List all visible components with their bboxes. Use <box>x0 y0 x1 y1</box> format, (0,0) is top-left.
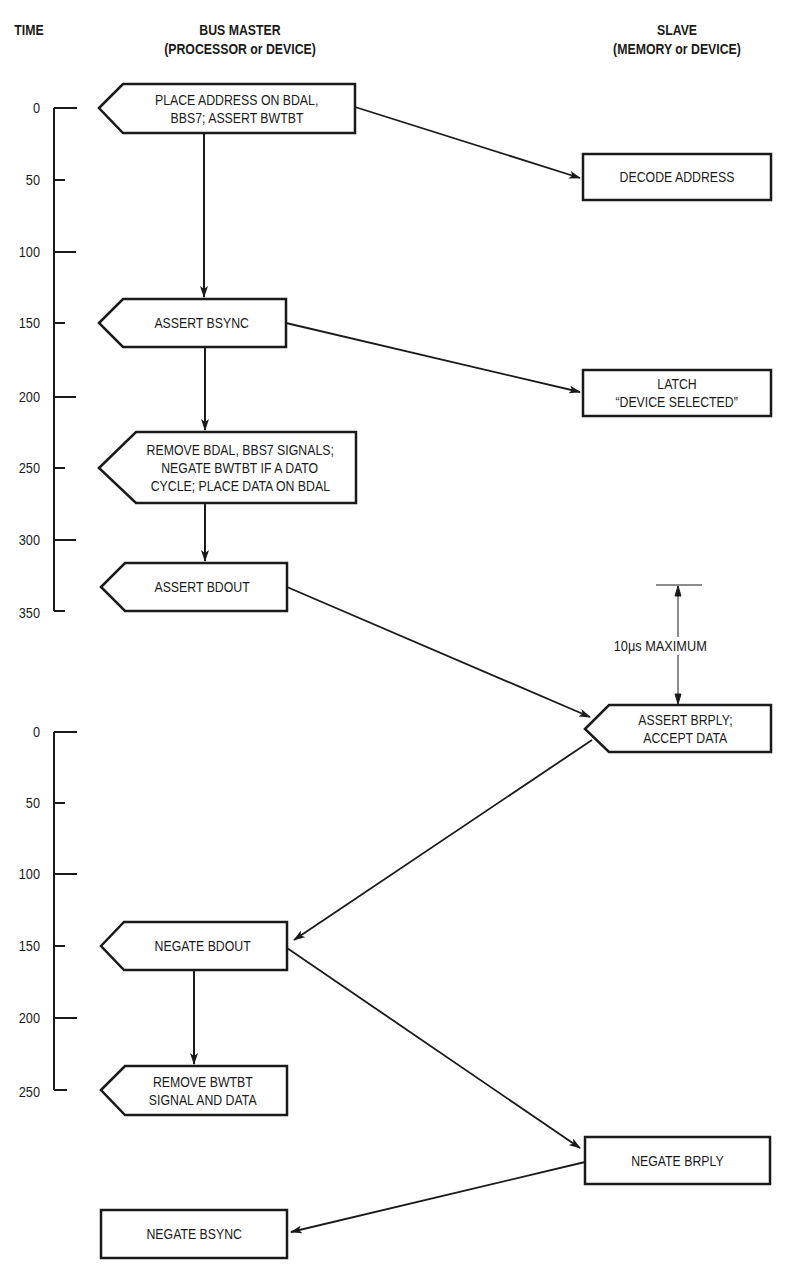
slave-subtitle: (MEMORY or DEVICE) <box>595 39 759 58</box>
step-negate-bsync: NEGATE BSYNC <box>101 1210 287 1258</box>
axis1-tick-label: 150 <box>6 315 40 331</box>
axis2-tick-label: 250 <box>6 1084 40 1100</box>
step-negate-bdout: NEGATE BDOUT <box>118 922 287 970</box>
time-header: TIME <box>9 20 50 39</box>
bus-master-header: BUS MASTER (PROCESSOR or DEVICE) <box>158 20 322 58</box>
step-decode-address: DECODE ADDRESS <box>583 154 771 200</box>
time-axis-2 <box>54 732 77 1090</box>
slave-header: SLAVE (MEMORY or DEVICE) <box>595 20 759 58</box>
step-place-address: PLACE ADDRESS ON BDAL, BBS7; ASSERT BWTB… <box>118 84 355 133</box>
axis1-tick-label: 200 <box>6 389 40 405</box>
axis1-tick-label: 0 <box>6 100 40 116</box>
slave-title: SLAVE <box>595 20 759 39</box>
axis2-tick-label: 150 <box>6 938 40 954</box>
axis1-tick-label: 100 <box>6 244 40 260</box>
axis2-tick-label: 50 <box>6 795 40 811</box>
axis1-tick-label: 50 <box>6 172 40 188</box>
axis2-tick-label: 100 <box>6 866 40 882</box>
step-assert-bsync: ASSERT BSYNC <box>118 299 286 347</box>
bus-master-title: BUS MASTER <box>158 20 322 39</box>
axis1-tick-label: 300 <box>6 532 40 548</box>
axis1-tick-label: 350 <box>6 605 40 621</box>
axis2-tick-label: 0 <box>6 724 40 740</box>
step-remove-bwtbt: REMOVE BWTBT SIGNAL AND DATA <box>118 1066 287 1115</box>
step-negate-brply: NEGATE BRPLY <box>585 1137 770 1184</box>
step-assert-bdout: ASSERT BDOUT <box>118 563 287 611</box>
step-remove-bdal: REMOVE BDAL, BBS7 SIGNALS; NEGATE BWTBT … <box>122 432 358 503</box>
timeout-annotation: 10μs MAXIMUM <box>612 637 708 655</box>
step-latch-device-selected: LATCH “DEVICE SELECTED” <box>583 370 771 416</box>
axis1-tick-label: 250 <box>6 460 40 476</box>
time-axis-1 <box>54 108 77 611</box>
step-assert-brply: ASSERT BRPLY; ACCEPT DATA <box>600 705 771 752</box>
axis2-tick-label: 200 <box>6 1010 40 1026</box>
bus-master-subtitle: (PROCESSOR or DEVICE) <box>158 39 322 58</box>
